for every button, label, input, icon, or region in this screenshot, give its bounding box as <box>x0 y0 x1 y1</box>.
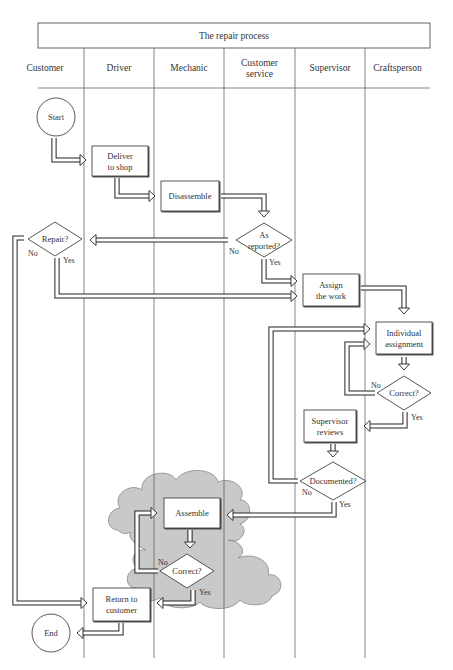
lane-header-customer-service: service <box>246 69 273 79</box>
node-assemble: Assemble <box>164 498 220 528</box>
node-label-as-reported: As <box>259 230 268 240</box>
lane-header-supervisor: Supervisor <box>309 63 351 73</box>
branch-label-yes: Yes <box>63 256 75 265</box>
arrow-correct-craft-to-supervisor-reviews <box>364 412 405 432</box>
node-label-assign-work: the work <box>316 291 347 301</box>
arrowhead-icon <box>291 291 297 302</box>
node-label-correct-craft: Correct? <box>389 388 418 398</box>
node-label-as-reported: reported? <box>248 241 280 251</box>
lane-header-craftsperson: Craftsperson <box>373 63 422 73</box>
node-label-individual-assignment: assignment <box>385 339 424 349</box>
arrowhead-icon <box>77 628 83 639</box>
node-assign-work: Assignthe work <box>303 274 359 306</box>
node-return: Return tocustomer <box>93 588 150 621</box>
branch-label-no: No <box>371 381 381 390</box>
arrowhead-icon <box>399 364 410 370</box>
node-label-return: customer <box>106 605 137 615</box>
arrow-start-to-deliver <box>54 138 86 166</box>
branch-label-no: No <box>28 249 38 258</box>
node-disassemble: Disassemble <box>161 181 219 211</box>
node-label-return: Return to <box>106 594 138 604</box>
node-supervisor-reviews: Supervisorreviews <box>304 410 356 442</box>
node-label-supervisor-reviews: Supervisor <box>312 416 349 426</box>
diagram-title: The repair process <box>199 31 269 41</box>
lane-header-mechanic: Mechanic <box>170 63 207 73</box>
lane-header-customer: Customer <box>27 63 65 73</box>
arrow-supervisor-reviews-to-documented <box>328 444 339 457</box>
arrow-repair-to-assign-work <box>57 258 297 302</box>
branch-label-no: No <box>302 488 312 497</box>
node-correct-craft: Correct? <box>377 376 431 410</box>
arrow-documented-to-individual-assignment <box>271 324 370 482</box>
branch-label-no: No <box>158 558 168 567</box>
branch-label-yes: Yes <box>199 588 211 597</box>
branch-label-yes: Yes <box>339 500 351 509</box>
arrowhead-icon <box>364 339 370 350</box>
node-label-assign-work: Assign <box>319 280 343 290</box>
branch-label-yes: Yes <box>269 258 281 267</box>
node-label-deliver: Deliver <box>107 151 133 161</box>
node-label-documented: Documented? <box>309 476 356 486</box>
node-label-supervisor-reviews: reviews <box>317 427 343 437</box>
node-label-deliver: to shop <box>108 162 133 172</box>
node-label-start: Start <box>48 112 65 122</box>
node-label-correct-mech: Correct? <box>172 566 201 576</box>
node-start: Start <box>37 98 75 136</box>
lanes: CustomerDriverMechanicCustomerserviceSup… <box>27 48 422 658</box>
node-label-individual-assignment: Individual <box>387 328 423 338</box>
node-label-assemble: Assemble <box>175 508 209 518</box>
branch-label-yes: Yes <box>411 413 423 422</box>
node-label-repair: Repair? <box>42 234 69 244</box>
repair-process-swimlane-diagram: The repair process CustomerDriverMechani… <box>0 0 453 670</box>
lane-header-driver: Driver <box>107 63 133 73</box>
arrow-deliver-to-disassemble <box>117 178 155 202</box>
arrow-as-reported-to-repair <box>90 235 228 246</box>
arrowhead-icon <box>90 235 96 246</box>
node-individual-assignment: Individualassignment <box>376 322 432 354</box>
node-label-end: End <box>44 628 58 638</box>
arrow-assign-work-to-individual-assignment <box>361 288 410 314</box>
node-as-reported: Asreported? <box>236 223 292 257</box>
branch-label-no: No <box>229 247 239 256</box>
node-label-disassemble: Disassemble <box>169 191 212 201</box>
lane-header-customer-service: Customer <box>241 58 279 68</box>
node-deliver: Deliverto shop <box>92 146 148 176</box>
lane-customer: Customer <box>27 63 65 73</box>
lane-driver: Driver <box>84 48 132 658</box>
arrowhead-icon <box>291 276 297 287</box>
arrowhead-icon <box>259 211 270 217</box>
arrowhead-icon <box>328 451 339 457</box>
node-end: End <box>32 614 70 652</box>
lane-supervisor: Supervisor <box>295 48 351 658</box>
arrow-individual-assignment-to-correct-craft <box>399 357 410 370</box>
arrowhead-icon <box>364 324 370 335</box>
arrowhead-icon <box>399 308 410 314</box>
arrow-disassemble-to-as-reported <box>221 196 270 217</box>
arrowhead-icon <box>80 155 86 166</box>
